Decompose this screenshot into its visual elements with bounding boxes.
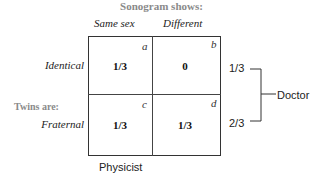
physicist-label: Physicist	[99, 161, 142, 173]
bracket-icon	[248, 64, 278, 126]
cell-b-value: 0	[153, 60, 217, 72]
row-header-fraternal: Fraternal	[0, 118, 84, 130]
diagram-title: Sonogram shows:	[0, 0, 323, 12]
marginal-identical: 1/3	[229, 62, 244, 74]
cell-b-corner-label: b	[211, 38, 217, 50]
cell-c-value: 1/3	[88, 119, 152, 131]
table-vertical-divider	[152, 36, 153, 156]
cell-a-corner-label: a	[142, 40, 148, 52]
column-header-same-sex: Same sex	[94, 17, 135, 29]
row-header-identical: Identical	[0, 59, 84, 71]
marginal-fraternal: 2/3	[229, 117, 244, 129]
column-header-different: Different	[163, 17, 202, 29]
cell-d-corner-label: d	[211, 97, 217, 109]
cell-a-value: 1/3	[88, 60, 152, 72]
cell-d-value: 1/3	[153, 119, 217, 131]
probability-table-box	[88, 36, 221, 156]
cell-c-corner-label: c	[142, 98, 147, 110]
row-group-label: Twins are:	[14, 101, 59, 112]
doctor-label: Doctor	[277, 89, 309, 101]
table-horizontal-divider	[88, 94, 221, 95]
